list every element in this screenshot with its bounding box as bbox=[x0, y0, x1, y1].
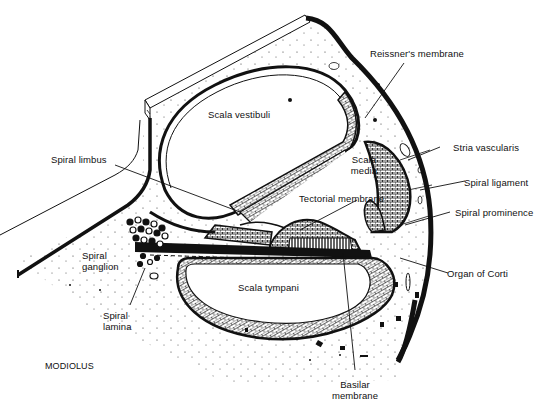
label-scala-media-1: Scala bbox=[346, 154, 382, 165]
label-spiral-ganglion-1: Spiral bbox=[82, 250, 107, 261]
label-modiolus: MODIOLUS bbox=[45, 361, 94, 372]
label-spiral-ganglion-2: ganglion bbox=[82, 261, 119, 272]
label-spiral-limbus: Spiral limbus bbox=[51, 154, 107, 165]
cochlea-diagram bbox=[0, 0, 551, 410]
label-basilar-membrane-1: Basilar bbox=[330, 379, 380, 390]
label-scala-media-2: media bbox=[346, 165, 382, 176]
label-scala-tympani: Scala tympani bbox=[238, 282, 299, 293]
label-spiral-lamina-1: Spiral bbox=[103, 310, 128, 321]
label-spiral-ligament: Spiral ligament bbox=[464, 177, 528, 188]
label-basilar-membrane-2: membrane bbox=[330, 390, 380, 401]
label-tectorial-membrane: Tectorial membrane bbox=[299, 193, 384, 204]
label-spiral-prominence: Spiral prominence bbox=[455, 207, 533, 218]
label-spiral-lamina-2: lamina bbox=[103, 321, 132, 332]
label-reissners-membrane: Reissner's membrane bbox=[370, 48, 464, 59]
label-organ-of-corti: Organ of Corti bbox=[447, 268, 508, 279]
label-scala-vestibuli: Scala vestibuli bbox=[208, 109, 270, 120]
label-stria-vascularis: Stria vascularis bbox=[453, 142, 519, 153]
